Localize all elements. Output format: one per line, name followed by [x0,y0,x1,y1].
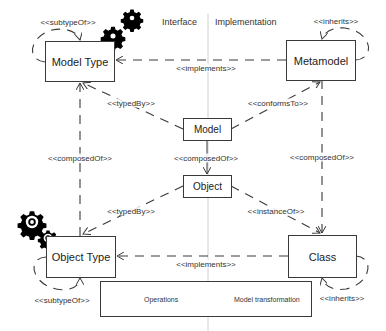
node-object-type[interactable]: Object Type [46,236,116,278]
legend-box: Operations Model transformation [100,281,312,317]
label-subtypeof-top: <<subtypeOf>> [39,18,96,27]
label-implements-bottom: <<implements>> [175,260,237,269]
node-object[interactable]: Object [183,175,232,198]
node-class[interactable]: Class [288,235,357,278]
label-conformsto: <<conformsTo>> [247,99,309,108]
interface-header: Interface [162,17,197,27]
label-typedby-top: <<typedBy>> [106,99,156,108]
node-model-type[interactable]: Model Type [45,41,115,82]
label-subtypeof-bottom: <<subtypeOf>> [33,296,90,305]
label-typedby-bottom: <<typedBy>> [106,207,156,216]
node-model[interactable]: Model [183,118,232,141]
implementation-header: Implementation [215,17,277,27]
legend-model-transformation-label: Model transformation [234,296,300,303]
label-composedof-right: <<composedOf>> [289,153,355,162]
label-composedof-center: <<composedOf>> [173,154,239,163]
legend-operations-label: Operations [144,296,178,303]
node-metamodel[interactable]: Metamodel [286,40,356,81]
label-composedof-left: <<composedOf>> [47,154,113,163]
label-inherits-top: <<inherits>> [313,17,359,26]
label-inherits-bottom: <<inherits>> [319,294,365,303]
label-implements-top: <<implements>> [175,64,237,73]
label-instanceof: <<instanceOf>> [247,207,306,216]
